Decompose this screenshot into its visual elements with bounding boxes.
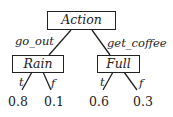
edge-rain-f bbox=[43, 72, 51, 90]
leaf-value-full-f: 0.3 bbox=[133, 95, 153, 108]
decision-tree-diagram: Action go_out get_coffee Rain Full t f t… bbox=[0, 0, 173, 117]
node-full: Full bbox=[97, 55, 140, 73]
leaf-value-rain-f: 0.1 bbox=[44, 95, 64, 108]
node-rain-label: Rain bbox=[23, 56, 52, 71]
edge-label-rain-f: f bbox=[51, 77, 55, 89]
edge-label-get-coffee: get_coffee bbox=[107, 37, 167, 49]
node-action: Action bbox=[47, 11, 116, 30]
node-action-label: Action bbox=[61, 12, 102, 27]
node-full-label: Full bbox=[106, 56, 131, 71]
edge-label-go-out: go_out bbox=[15, 35, 54, 47]
leaf-value-rain-t: 0.8 bbox=[8, 95, 28, 108]
edge-full-f bbox=[124, 72, 137, 90]
edge-label-full-f: f bbox=[139, 77, 143, 89]
edge-label-full-t: t bbox=[100, 76, 105, 88]
edge-label-rain-t: t bbox=[19, 76, 24, 88]
leaf-value-full-t: 0.6 bbox=[89, 95, 109, 108]
node-rain: Rain bbox=[12, 55, 64, 73]
